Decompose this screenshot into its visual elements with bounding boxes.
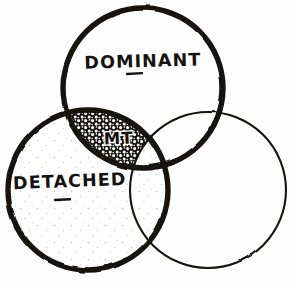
label-dominant-underline-tick [127,73,142,74]
label-mt: MT [104,128,135,148]
venn-diagram-svg: DOMINANT MT DETACHED [0,0,295,283]
label-mt-group: MT [104,128,135,148]
label-detached-underline-tick [55,199,70,200]
label-dominant: DOMINANT [84,49,201,72]
venn-diagram-canvas: DOMINANT MT DETACHED [0,0,295,283]
